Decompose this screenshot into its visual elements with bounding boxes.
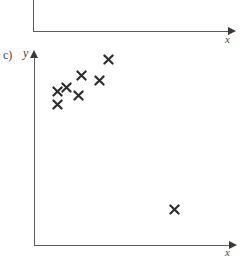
data-point-marker (103, 54, 114, 65)
data-point-marker (76, 70, 87, 81)
data-point-marker (94, 75, 105, 86)
data-point-marker (61, 82, 72, 93)
scatter-plot-figure: x c) y x (0, 0, 247, 258)
data-point-marker (169, 204, 180, 215)
data-point-marker (73, 90, 84, 101)
scatter-plot-data-area (0, 0, 247, 258)
data-point-marker (52, 99, 63, 110)
